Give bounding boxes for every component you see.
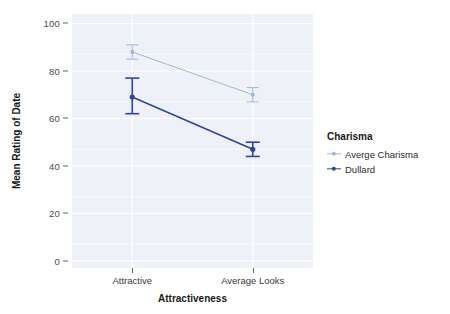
plot-area-svg bbox=[72, 14, 313, 268]
x-tick-mark bbox=[253, 268, 254, 273]
plot-panel bbox=[72, 14, 313, 268]
data-point bbox=[130, 94, 135, 99]
x-tick-label: Average Looks bbox=[221, 275, 284, 286]
y-tick-label: 100 bbox=[44, 18, 60, 29]
y-tick-label: 0 bbox=[55, 255, 60, 266]
legend-key-icon bbox=[327, 148, 341, 160]
legend-item-label: Averge Charisma bbox=[345, 149, 418, 160]
legend: Charisma Averge CharismaDullard bbox=[327, 131, 447, 177]
y-tick-mark bbox=[63, 165, 68, 166]
y-tick-label: 60 bbox=[49, 113, 60, 124]
y-tick-mark bbox=[63, 23, 68, 24]
legend-title: Charisma bbox=[327, 131, 447, 142]
y-tick-mark bbox=[63, 118, 68, 119]
y-tick-mark bbox=[63, 213, 68, 214]
legend-item: Dullard bbox=[327, 162, 447, 176]
x-axis-title: Attractiveness bbox=[72, 293, 313, 304]
data-point bbox=[251, 93, 255, 97]
x-tick-mark bbox=[132, 268, 133, 273]
gridlines bbox=[72, 14, 313, 268]
chart-figure: Mean Rating of Date 020406080100 Attract… bbox=[0, 0, 450, 314]
y-tick-label: 20 bbox=[49, 208, 60, 219]
legend-item: Averge Charisma bbox=[327, 147, 447, 161]
y-tick-mark bbox=[63, 70, 68, 71]
series-layer bbox=[125, 45, 260, 157]
y-axis-title: Mean Rating of Date bbox=[11, 41, 22, 241]
y-tick-label: 40 bbox=[49, 160, 60, 171]
y-axis: Mean Rating of Date 020406080100 bbox=[0, 14, 72, 268]
y-tick-label: 80 bbox=[49, 65, 60, 76]
series-line bbox=[132, 97, 253, 149]
data-point bbox=[130, 50, 134, 54]
x-tick-label: Attractive bbox=[112, 275, 152, 286]
legend-items: Averge CharismaDullard bbox=[327, 147, 447, 176]
legend-item-label: Dullard bbox=[345, 164, 375, 175]
series-line bbox=[132, 52, 253, 95]
legend-key-icon bbox=[327, 163, 341, 175]
data-point bbox=[250, 147, 255, 152]
y-tick-mark bbox=[63, 260, 68, 261]
